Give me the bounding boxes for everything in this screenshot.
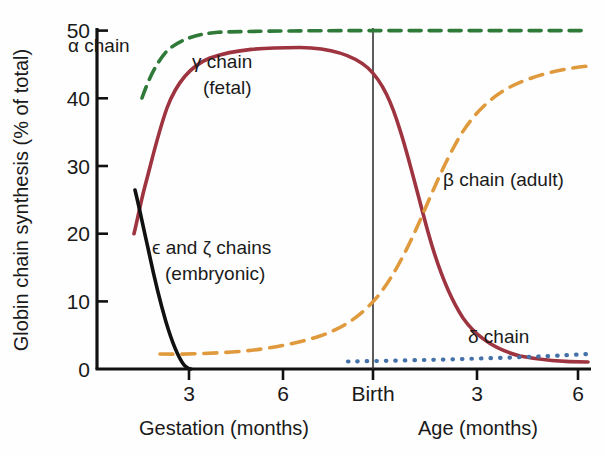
series-beta-chain-curve	[160, 66, 588, 354]
x-tick-label-age-6: 6	[572, 382, 584, 405]
y-tick-label-40: 40	[67, 87, 90, 110]
x-tick-label-gestation-6: 6	[277, 382, 289, 405]
gamma-chain-label-line2: (fetal)	[203, 77, 252, 98]
epsilon-zeta-label-line1: ϵ and ζ chains	[152, 237, 271, 258]
y-tick-label-0: 0	[78, 358, 90, 381]
gamma-chain-label-line1: γ chain	[192, 51, 252, 72]
x-axis-ticks	[189, 369, 578, 380]
y-axis-tick-labels: 50 40 30 20 10 0	[67, 19, 90, 381]
globin-chain-synthesis-chart: 50 40 30 20 10 0 3 6 Birth 3 6 Globin ch…	[0, 0, 605, 456]
y-axis-ticks	[97, 31, 108, 302]
x-axis-title-gestation: Gestation (months)	[139, 417, 309, 439]
x-tick-label-age-3: 3	[471, 382, 483, 405]
epsilon-zeta-label-line2: (embryonic)	[165, 263, 265, 284]
x-tick-label-birth: Birth	[351, 382, 394, 405]
chart-canvas: 50 40 30 20 10 0 3 6 Birth 3 6 Globin ch…	[0, 0, 605, 456]
x-axis-tick-labels: 3 6 Birth 3 6	[183, 382, 584, 405]
x-tick-label-gestation-3: 3	[183, 382, 195, 405]
y-tick-label-20: 20	[67, 222, 90, 245]
axes-group	[96, 28, 592, 369]
x-axis-title-age: Age (months)	[418, 417, 538, 439]
delta-chain-label: δ chain	[468, 326, 529, 347]
y-tick-label-30: 30	[67, 155, 90, 178]
alpha-chain-label: α chain	[68, 35, 130, 56]
y-tick-label-10: 10	[67, 290, 90, 313]
beta-chain-label: β chain (adult)	[443, 169, 564, 190]
y-axis-title: Globin chain synthesis (% of total)	[10, 49, 32, 351]
